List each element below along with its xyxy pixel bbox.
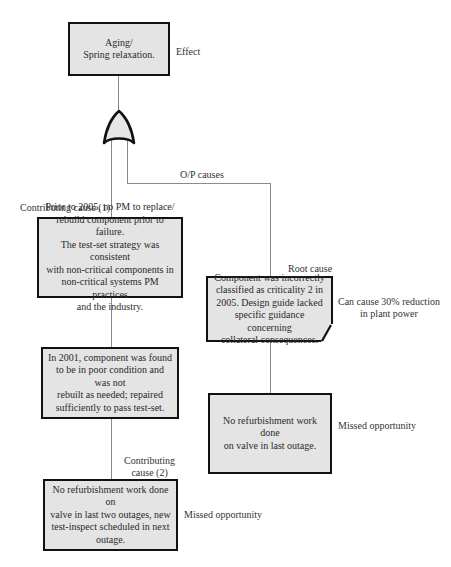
connector-gate-right-vertical	[127, 140, 128, 184]
contributing-cause-1-box: Prior to 2005, no PM to replace/ rebuild…	[37, 217, 183, 298]
root-cause-followup-text: No refurbishment work done on valve in l…	[214, 415, 326, 453]
root-cause-followup-box: No refurbishment work done on valve in l…	[208, 393, 332, 474]
root-cause-text: Component was incorrectly classified as …	[212, 272, 327, 347]
or-gate-icon	[102, 109, 136, 145]
effect-box: Aging/ Spring relaxation.	[68, 22, 170, 76]
effect-label: Effect	[176, 46, 200, 58]
op-causes-label: O/P causes	[180, 169, 224, 181]
connector-2001-to-cause2	[111, 418, 112, 479]
finding-2001-box: In 2001, component was found to be in po…	[41, 347, 179, 419]
contributing-cause-2-box: No refurbishment work done on valve in l…	[43, 479, 178, 551]
root-cause-box: Component was incorrectly classified as …	[206, 276, 333, 342]
contributing-cause-2-text: No refurbishment work done on valve in l…	[49, 484, 172, 547]
root-cause-side-label: Can cause 30% reduction in plant power	[338, 296, 440, 320]
root-cause-corner-flag-icon	[319, 324, 333, 342]
contributing-cause-1-text: Prior to 2005, no PM to replace/ rebuild…	[43, 201, 177, 314]
root-cause-followup-side-label: Missed opportunity	[338, 420, 416, 432]
contributing-cause-2-label: Contributing cause (2)	[124, 455, 175, 479]
connector-root-to-followup	[270, 341, 271, 393]
connector-op-causes-to-root	[270, 183, 271, 276]
effect-text: Aging/ Spring relaxation.	[83, 37, 155, 62]
finding-2001-text: In 2001, component was found to be in po…	[47, 352, 173, 415]
contributing-cause-2-side-label: Missed opportunity	[184, 509, 262, 521]
connector-effect-to-gate	[118, 76, 119, 112]
connector-op-causes-horizontal	[127, 183, 271, 184]
